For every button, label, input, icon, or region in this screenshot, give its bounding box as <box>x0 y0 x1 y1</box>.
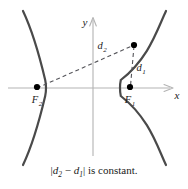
distance-d2-label: d 2 <box>97 40 107 54</box>
distance-d1-subscript: 1 <box>142 68 146 76</box>
hyperbola-diagram-canvas: y x d 2 d 1 F <box>0 0 188 189</box>
y-axis-label: y <box>82 16 88 28</box>
caption-tail-text: is constant. <box>85 164 137 176</box>
focus-1-subscript: 1 <box>132 100 136 108</box>
curve-point-marker <box>131 42 137 48</box>
focus-1-letter: F <box>124 94 132 105</box>
figure-caption: |d2 − d1| is constant. <box>0 163 188 182</box>
focus-2-point <box>34 84 40 90</box>
focus-2-subscript: 2 <box>39 100 43 108</box>
distance-d1-line <box>131 46 135 86</box>
focus-1-point <box>127 84 133 90</box>
points-group <box>34 42 137 90</box>
focus-2-letter: F <box>31 94 39 105</box>
x-axis-label: x <box>174 89 180 101</box>
hyperbola-figure: y x d 2 d 1 F <box>0 0 188 189</box>
caption-minus-sign: − <box>62 164 74 176</box>
distance-d2-subscript: 2 <box>103 46 107 54</box>
distance-d2-line <box>37 46 133 89</box>
distance-d1-label: d 1 <box>136 62 145 76</box>
focus-1-label: F 1 <box>124 94 135 108</box>
focus-2-label: F 2 <box>31 94 43 108</box>
